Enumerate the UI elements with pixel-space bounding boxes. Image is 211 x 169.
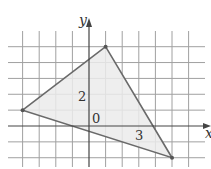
triangle-region: [23, 47, 172, 158]
x-axis-label: x: [205, 125, 211, 141]
y-tick-label-2: 2: [78, 89, 86, 104]
vertex-point: [21, 108, 25, 112]
y-axis-label: y: [78, 12, 88, 28]
x-tick-label-3: 3: [135, 128, 143, 143]
origin-label: 0: [92, 111, 100, 126]
coordinate-plane-diagram: y x 0 2 3: [0, 0, 211, 169]
vertex-point: [104, 45, 108, 49]
vertex-point: [170, 156, 174, 160]
